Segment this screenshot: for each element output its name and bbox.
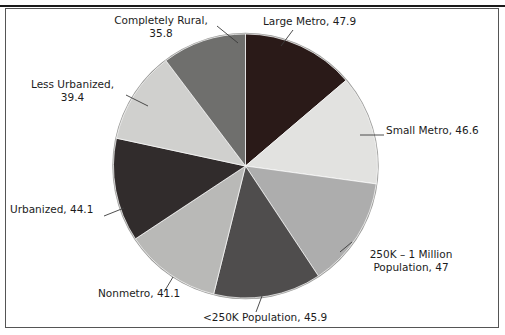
pie-label-under-250k-population: <250K Population, 45.9	[203, 311, 327, 324]
pie-label-less-urbanized: Less Urbanized,39.4	[20, 78, 125, 103]
pie-label-large-metro: Large Metro, 47.9	[263, 15, 393, 28]
pie-chart-svg	[0, 0, 505, 335]
pie-label-nonmetro: Nonmetro, 41.1	[98, 287, 213, 300]
pie-chart: Completely Rural,35.8 Large Metro, 47.9 …	[0, 0, 505, 335]
pie-label-250k-1-million-population: 250K – 1 MillionPopulation, 47	[352, 248, 470, 273]
pie-label-urbanized: Urbanized, 44.1	[10, 203, 125, 216]
pie-label-small-metro: Small Metro, 46.6	[386, 124, 505, 137]
pie-slice-group	[112, 33, 378, 299]
pie-label-completely-rural: Completely Rural,35.8	[105, 14, 217, 39]
screenshot-root: Completely Rural,35.8 Large Metro, 47.9 …	[0, 0, 505, 335]
